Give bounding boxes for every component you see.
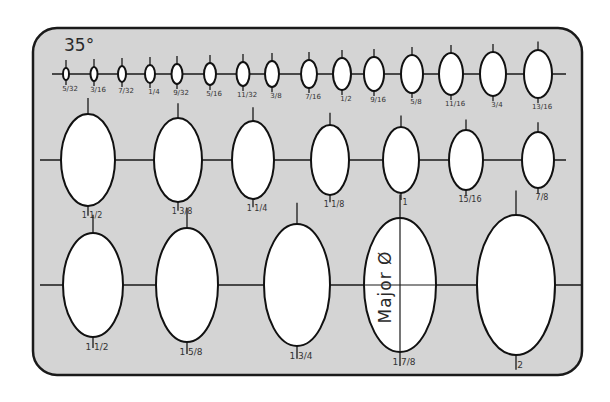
ellipse-outline (172, 64, 183, 84)
size-label: 7/8 (536, 193, 549, 202)
ellipse-outline (232, 121, 274, 199)
ellipse-outline (61, 114, 115, 206)
size-label: 9/16 (370, 96, 386, 104)
size-label: 5/32 (62, 85, 78, 93)
size-label: 2 (517, 360, 523, 370)
major-diameter-label: Major Ø (375, 251, 395, 324)
ellipse-outline (401, 55, 423, 93)
size-label: 5/8 (410, 98, 421, 106)
ellipse-outline (63, 233, 123, 337)
size-label: 1 3/8 (172, 207, 193, 216)
size-label: 1/4 (148, 88, 160, 96)
ellipse-outline (480, 52, 506, 96)
ellipse-outline (311, 125, 349, 195)
ellipse-outline (264, 224, 330, 346)
ellipse-outline (156, 228, 218, 342)
size-label: 1 5/8 (179, 347, 202, 357)
ellipse-outline (449, 130, 483, 190)
size-label: 15/16 (458, 195, 481, 204)
size-label: 11/32 (237, 91, 257, 99)
ellipse-outline (154, 118, 202, 202)
size-label: 11/16 (445, 100, 466, 108)
size-label: 1 3/4 (289, 351, 312, 361)
ellipse-outline (91, 67, 98, 81)
size-label: 1 1/2 (82, 211, 103, 220)
ellipse-outline (237, 62, 250, 86)
ellipse-outline (383, 127, 419, 193)
size-label: 1/2 (340, 95, 351, 103)
size-label: 1 1/2 (85, 342, 108, 352)
size-label: 3/16 (90, 86, 106, 94)
ellipse-outline (333, 58, 351, 90)
size-label: 13/16 (532, 103, 553, 111)
size-label: 7/16 (305, 93, 321, 101)
size-label: 1 1/4 (247, 204, 268, 213)
ellipse-template-diagram: 5/323/167/321/49/325/1611/323/87/161/29/… (0, 0, 610, 402)
ellipse-outline (477, 215, 555, 355)
ellipse-outline (63, 68, 69, 80)
ellipse-outline (524, 50, 552, 98)
ellipse-outline (301, 60, 317, 88)
size-label: 5/16 (206, 90, 222, 98)
size-label: 3/4 (491, 101, 503, 109)
size-label: 9/32 (173, 89, 189, 97)
size-label: 3/8 (270, 92, 281, 100)
size-label: 7/32 (118, 87, 134, 95)
ellipse-outline (439, 53, 463, 95)
ellipse-outline (145, 65, 155, 83)
size-label: 1 (402, 198, 407, 207)
ellipse-outline (364, 57, 384, 91)
ellipse-outline (265, 61, 279, 87)
ellipse-outline (204, 63, 216, 85)
angle-label: 35° (64, 35, 94, 55)
size-label: 1 7/8 (392, 357, 415, 367)
size-label: 1 1/8 (324, 200, 345, 209)
ellipse-outline (118, 66, 126, 82)
ellipse-outline (522, 132, 554, 188)
